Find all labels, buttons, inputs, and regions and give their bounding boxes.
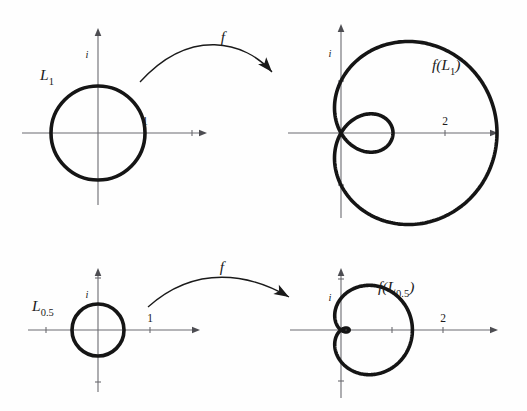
real-axis-arrowhead-domain-bottom xyxy=(192,327,200,334)
curve-label-image-bottom: f(L0.5) xyxy=(378,278,414,299)
real-axis-label-domain-top: 1 xyxy=(142,115,148,127)
curve-label-image-top: f(L1) xyxy=(432,56,461,77)
imaginary-axis-arrowhead-domain-top xyxy=(95,28,102,36)
imaginary-axis-label-domain-bottom: i xyxy=(86,289,89,300)
arrow-bottom-head xyxy=(273,285,291,302)
imaginary-axis-arrowhead-domain-bottom xyxy=(95,268,102,276)
curve-label-domain-top: L1 xyxy=(39,66,54,87)
curves-layer xyxy=(51,41,497,374)
imaginary-axis-label-image-bottom: i xyxy=(329,292,332,303)
axes-layer xyxy=(22,24,498,398)
map-arrows-layer xyxy=(140,45,292,307)
real-axis-label-image-bottom: 2 xyxy=(440,312,446,324)
real-axis-label-domain-bottom: 1 xyxy=(147,312,153,324)
arrow-top-label: f xyxy=(221,28,228,45)
imaginary-axis-label-domain-top: i xyxy=(86,49,89,60)
arrow-bottom-line xyxy=(148,277,289,307)
imaginary-axis-arrowhead-image-bottom xyxy=(338,268,345,276)
real-axis-label-image-top: 2 xyxy=(442,115,448,127)
arrow-top-head xyxy=(258,57,276,75)
arrow-bottom-label: f xyxy=(220,258,227,275)
imaginary-axis-arrowhead-image-top xyxy=(338,24,345,32)
complex-map-figure: i1L1i2f(L1)i1L0.5i2f(L0.5)ff xyxy=(0,0,527,411)
real-axis-arrowhead-image-bottom xyxy=(490,327,498,334)
real-axis-arrowhead-domain-top xyxy=(199,130,207,137)
arrow-top-line xyxy=(140,45,272,82)
curve-label-domain-bottom: L0.5 xyxy=(31,297,54,318)
imaginary-axis-label-image-top: i xyxy=(329,48,332,59)
figure-canvas: i1L1i2f(L1)i1L0.5i2f(L0.5)ff xyxy=(0,0,527,411)
